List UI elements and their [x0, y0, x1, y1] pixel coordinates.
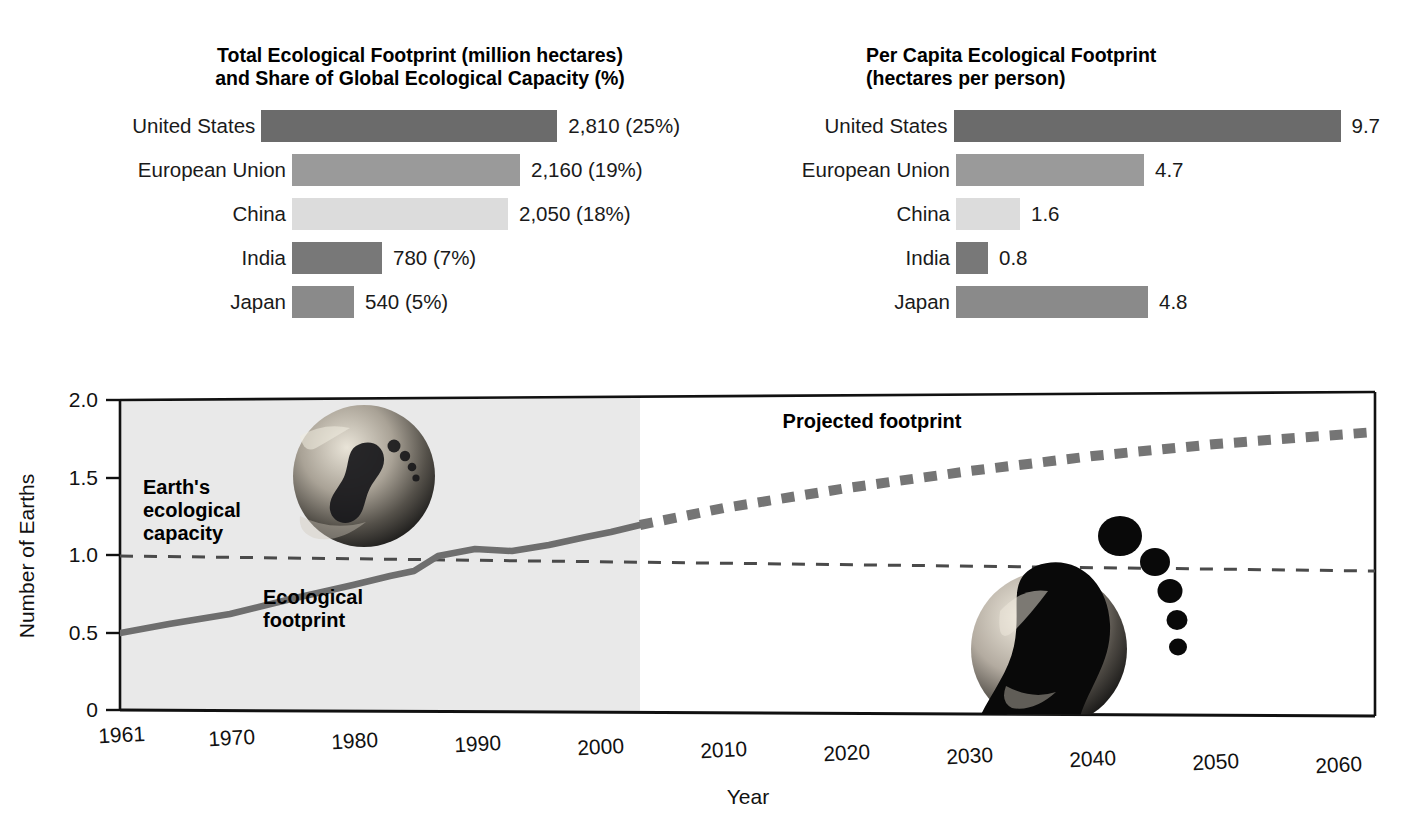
bar-value: 9.7 — [1341, 114, 1381, 138]
x-tick-label: 1970 — [208, 725, 256, 750]
y-tick-label: 0 — [86, 698, 98, 721]
table-row: United States 2,810 (25%) — [120, 104, 680, 148]
total-footprint-panel: Total Ecological Footprint (million hect… — [120, 44, 680, 324]
y-tick-label: 2.0 — [69, 388, 98, 411]
x-tick-label: 2000 — [577, 734, 625, 759]
table-row: European Union 2,160 (19%) — [120, 148, 680, 192]
annotation-projected-footprint: Projected footprint — [783, 410, 962, 432]
table-row: India 780 (7%) — [120, 236, 680, 280]
per-capita-footprint-panel: Per Capita Ecological Footprint (hectare… — [760, 44, 1380, 324]
y-axis-title: Number of Earths — [15, 474, 38, 639]
bar-label: European Union — [120, 158, 292, 182]
table-row: Japan 540 (5%) — [120, 280, 680, 324]
per-capita-footprint-title: Per Capita Ecological Footprint (hectare… — [760, 44, 1380, 90]
x-tick-label: 2060 — [1315, 752, 1363, 777]
y-tick-label: 0.5 — [69, 621, 98, 644]
bar-label: China — [120, 202, 292, 226]
y-axis-ticks — [106, 400, 120, 710]
x-tick-label: 1961 — [98, 722, 146, 747]
table-row: China 2,050 (18%) — [120, 192, 680, 236]
bar-united-states — [954, 110, 1341, 142]
bar-label: India — [760, 246, 956, 270]
x-tick-label: 2020 — [823, 740, 871, 765]
bar-value: 0.8 — [988, 246, 1028, 270]
x-axis-title: Year — [727, 785, 769, 808]
total-footprint-title: Total Ecological Footprint (million hect… — [120, 44, 680, 90]
x-tick-label: 1980 — [331, 728, 379, 753]
bar-label: India — [120, 246, 292, 270]
globe-footprint-icon — [293, 405, 435, 547]
bar-value: 540 (5%) — [354, 290, 448, 314]
x-tick-label: 2030 — [946, 743, 994, 768]
y-tick-label: 1.5 — [69, 466, 98, 489]
projected-footprint-line — [640, 432, 1375, 525]
bar-china — [956, 198, 1020, 230]
x-tick-label: 2010 — [700, 737, 748, 762]
bar-label: Japan — [120, 290, 292, 314]
number-of-earths-line-chart: 2.0 1.5 1.0 0.5 0 Number of Earths 1961 … — [0, 366, 1424, 828]
bar-japan — [292, 286, 354, 318]
bar-label: European Union — [760, 158, 956, 182]
bar-label: United States — [120, 114, 261, 138]
bar-european-union — [956, 154, 1144, 186]
table-row: Japan 4.8 — [760, 280, 1380, 324]
bar-india — [292, 242, 382, 274]
bar-value: 2,050 (18%) — [508, 202, 631, 226]
x-tick-label: 1990 — [454, 731, 502, 756]
table-row: European Union 4.7 — [760, 148, 1380, 192]
x-tick-label: 2040 — [1069, 746, 1117, 771]
bar-value: 4.8 — [1148, 290, 1188, 314]
bar-value: 4.7 — [1144, 158, 1184, 182]
bar-united-states — [261, 110, 557, 142]
table-row: India 0.8 — [760, 236, 1380, 280]
bar-value: 1.6 — [1020, 202, 1060, 226]
bar-value: 780 (7%) — [382, 246, 476, 270]
bar-label: Japan — [760, 290, 956, 314]
table-row: United States 9.7 — [760, 104, 1380, 148]
bar-european-union — [292, 154, 520, 186]
y-tick-label: 1.0 — [69, 543, 98, 566]
bar-china — [292, 198, 508, 230]
bar-label: China — [760, 202, 956, 226]
bar-value: 2,160 (19%) — [520, 158, 643, 182]
bar-india — [956, 242, 988, 274]
bar-value: 2,810 (25%) — [557, 114, 680, 138]
table-row: China 1.6 — [760, 192, 1380, 236]
bar-label: United States — [760, 114, 954, 138]
per-capita-footprint-bars: United States 9.7 European Union 4.7 Chi… — [760, 104, 1380, 324]
x-tick-label: 2050 — [1192, 749, 1240, 774]
bar-japan — [956, 286, 1148, 318]
total-footprint-bars: United States 2,810 (25%) European Union… — [120, 104, 680, 324]
